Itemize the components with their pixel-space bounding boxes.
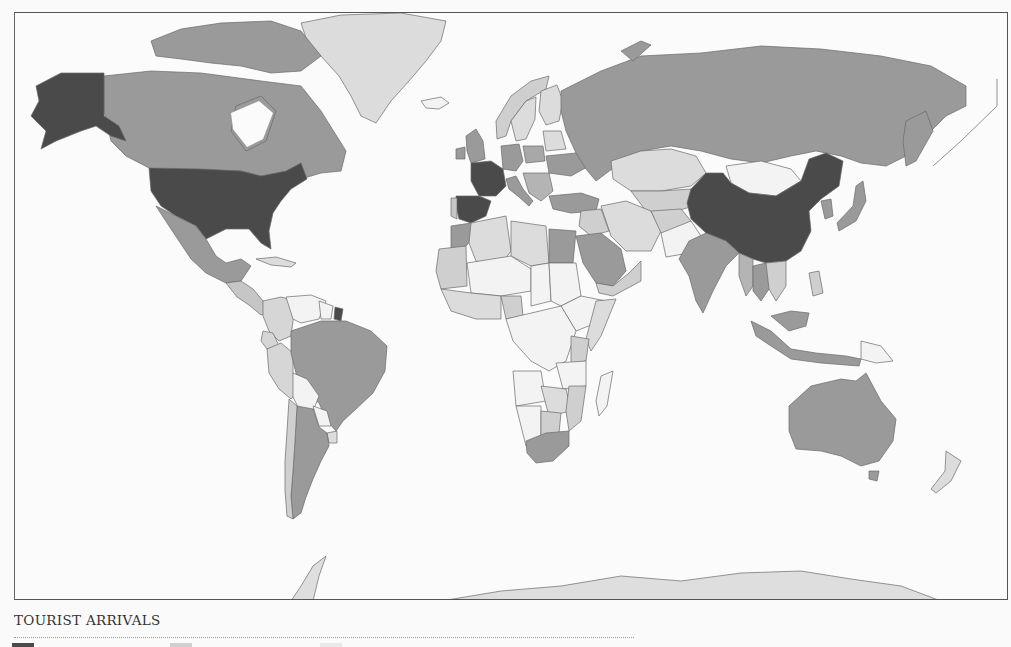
region-antarctica[interactable] — [441, 571, 941, 600]
region-papua-new-guinea[interactable] — [861, 341, 893, 363]
region-myanmar[interactable] — [739, 253, 753, 296]
region-tanzania[interactable] — [556, 361, 586, 389]
region-antarctic-peninsula[interactable] — [291, 556, 326, 600]
region-iceland[interactable] — [421, 97, 449, 109]
region-tasmania[interactable] — [869, 471, 879, 481]
region-french-guiana[interactable] — [334, 307, 343, 321]
region-guyana[interactable] — [319, 301, 333, 319]
region-kenya[interactable] — [571, 336, 589, 363]
region-korea[interactable] — [821, 199, 833, 219]
region-malaysia[interactable] — [771, 311, 809, 331]
region-canada[interactable] — [104, 71, 346, 181]
region-libya[interactable] — [511, 221, 549, 266]
world-map — [14, 12, 1008, 600]
region-united-kingdom[interactable] — [466, 129, 485, 163]
world-map-canvas — [15, 13, 1008, 600]
map-caption-title: TOURIST ARRIVALS — [14, 612, 161, 628]
region-mozambique[interactable] — [566, 386, 586, 431]
region-australia[interactable] — [789, 373, 896, 466]
region-spain[interactable] — [456, 196, 491, 223]
region-mali-niger[interactable] — [467, 256, 531, 296]
region-germany[interactable] — [501, 144, 523, 171]
region-central-america[interactable] — [226, 281, 269, 315]
region-chad[interactable] — [531, 263, 551, 306]
region-madagascar[interactable] — [596, 371, 613, 416]
legend-swatch-tier3 — [170, 643, 192, 647]
region-belarus-baltics[interactable] — [543, 131, 566, 151]
legend-swatch-tier1 — [12, 643, 34, 647]
region-philippines[interactable] — [809, 271, 823, 296]
region-angola[interactable] — [513, 371, 546, 406]
region-united-states[interactable] — [149, 163, 307, 249]
region-japan[interactable] — [837, 181, 866, 231]
region-mauritania-west[interactable] — [436, 246, 467, 289]
region-vietnam-laos[interactable] — [766, 261, 786, 301]
caption-divider — [14, 637, 634, 638]
legend — [12, 643, 652, 647]
region-canada-islands[interactable] — [151, 21, 321, 73]
region-india[interactable] — [679, 233, 739, 313]
region-france[interactable] — [471, 161, 506, 196]
region-portugal[interactable] — [451, 198, 457, 219]
region-finland[interactable] — [539, 85, 563, 125]
region-ireland[interactable] — [456, 147, 465, 159]
region-poland[interactable] — [523, 146, 545, 163]
legend-swatch-tier5 — [320, 643, 342, 647]
region-cuba[interactable] — [256, 257, 296, 267]
region-greenland[interactable] — [301, 13, 446, 123]
region-egypt[interactable] — [549, 229, 576, 263]
region-new-zealand[interactable] — [931, 451, 961, 493]
region-indonesia[interactable] — [751, 321, 861, 366]
